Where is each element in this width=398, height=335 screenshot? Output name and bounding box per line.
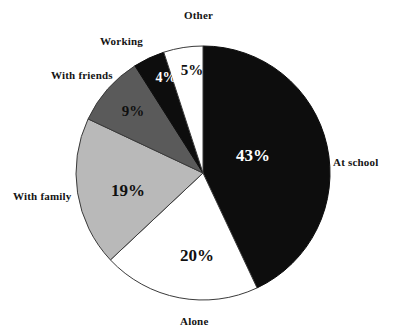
pie-value-working: 4% (156, 71, 177, 85)
pie-value-at-school: 43% (236, 147, 270, 164)
pie-label-with-friends: With friends (51, 70, 113, 81)
pie-label-alone: Alone (180, 316, 209, 327)
pie-value-with-family: 19% (111, 182, 145, 199)
pie-label-working: Working (100, 36, 143, 47)
pie-value-with-friends: 9% (122, 104, 145, 119)
pie-value-alone: 20% (180, 247, 214, 264)
pie-label-with-family: With family (13, 191, 72, 202)
pie-chart: At school43%Alone20%With family19%With f… (0, 0, 398, 335)
pie-label-other: Other (184, 10, 213, 21)
pie-value-other: 5% (181, 63, 204, 78)
pie-label-at-school: At school (333, 157, 379, 168)
